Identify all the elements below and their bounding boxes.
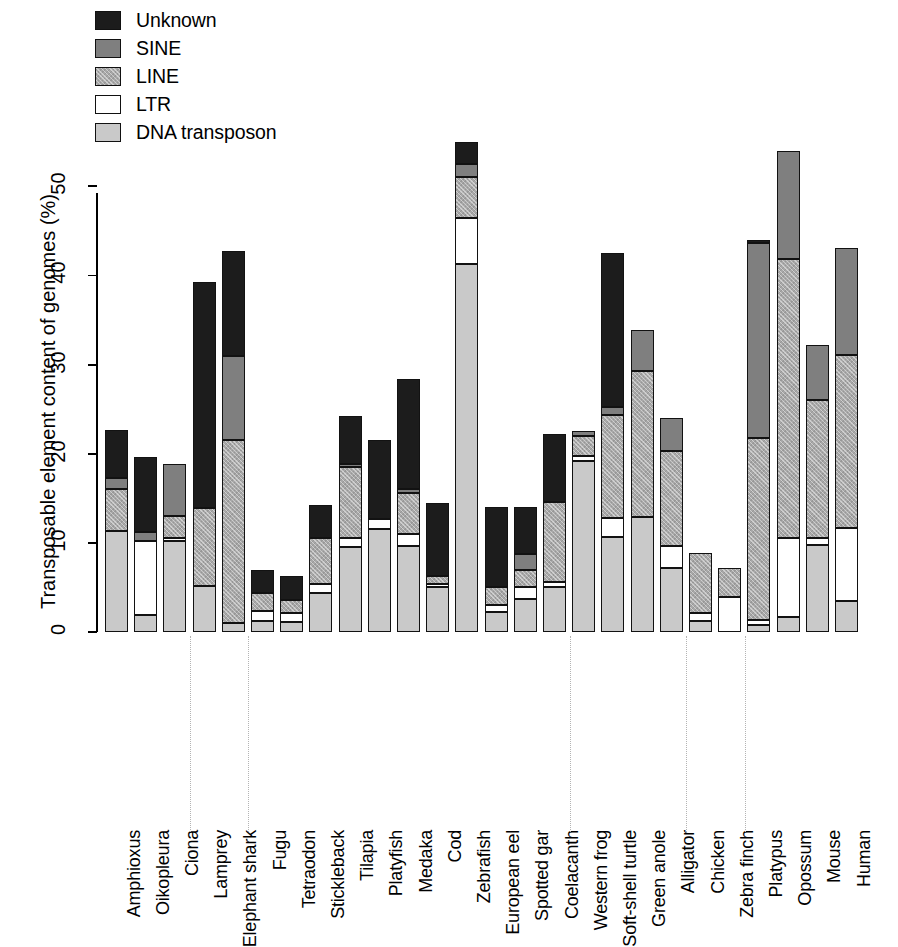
bar-elephant-shark[interactable] <box>222 251 245 632</box>
x-axis-label: Zebra finch <box>737 830 758 918</box>
legend-item: SINE <box>95 34 355 62</box>
bar-stickleback[interactable] <box>309 505 332 632</box>
x-axis-label: Chicken <box>708 830 729 894</box>
bar-segment <box>514 599 537 632</box>
bar-segment <box>485 507 508 586</box>
bar-segment <box>631 330 654 371</box>
bar-segment <box>222 623 245 632</box>
x-axis-label: Alligator <box>678 830 699 893</box>
bar-spotted-gar[interactable] <box>514 507 537 632</box>
bar-lamprey[interactable] <box>193 282 216 632</box>
bar-segment <box>485 587 508 606</box>
bar-segment <box>777 259 800 538</box>
bar-mouse[interactable] <box>806 345 829 632</box>
group-separator <box>745 636 746 832</box>
bar-fugu[interactable] <box>251 570 274 632</box>
bar-segment <box>514 554 537 569</box>
bar-segment <box>309 505 332 537</box>
bar-segment <box>280 600 303 613</box>
bar-platyfish[interactable] <box>368 440 391 632</box>
bar-segment <box>426 576 449 584</box>
x-axis-label: Western frog <box>591 830 612 930</box>
bar-segment <box>806 545 829 632</box>
group-separator <box>686 636 687 832</box>
bar-oikopleura[interactable] <box>134 457 157 632</box>
y-axis-tick <box>88 185 97 187</box>
bar-zebra-finch[interactable] <box>718 568 741 632</box>
bar-segment <box>134 532 157 541</box>
y-axis-tick <box>88 453 97 455</box>
bar-segment <box>339 538 362 548</box>
bar-amphioxus[interactable] <box>105 430 128 632</box>
bar-segment <box>514 570 537 587</box>
bar-opossum[interactable] <box>777 151 800 632</box>
bar-platypus[interactable] <box>747 240 770 632</box>
legend-item: LINE <box>95 62 355 90</box>
bar-tilapia[interactable] <box>339 416 362 632</box>
bar-segment <box>397 379 420 490</box>
bar-segment <box>134 457 157 532</box>
x-axis-label: Tetraodon <box>299 830 320 908</box>
y-axis-tick-label: 0 <box>47 608 70 652</box>
y-axis-tick <box>88 275 97 277</box>
bar-segment <box>572 431 595 435</box>
bar-segment <box>251 611 274 622</box>
bar-segment <box>689 621 712 632</box>
bar-segment <box>601 537 624 632</box>
bar-segment <box>514 587 537 599</box>
bar-european-eel[interactable] <box>485 507 508 632</box>
bar-soft-shell-turtle[interactable] <box>601 253 624 632</box>
bar-chicken[interactable] <box>689 553 712 632</box>
bar-segment <box>280 613 303 622</box>
bar-segment <box>426 503 449 576</box>
bar-segment <box>105 531 128 632</box>
bar-segment <box>163 538 186 541</box>
bar-segment <box>193 282 216 508</box>
bar-segment <box>309 593 332 632</box>
x-axis-label: Spotted gar <box>532 830 553 921</box>
bar-segment <box>309 538 332 584</box>
bar-segment <box>601 253 624 406</box>
bar-human[interactable] <box>835 248 858 632</box>
bar-segment <box>193 586 216 632</box>
legend-item-label: Unknown <box>136 11 217 30</box>
y-axis-tick-label: 50 <box>47 162 70 206</box>
legend-item-label: SINE <box>136 39 181 58</box>
bar-alligator[interactable] <box>660 418 683 632</box>
y-axis-tick <box>88 631 97 633</box>
bar-segment <box>222 440 245 623</box>
bar-segment <box>455 218 478 264</box>
bar-segment <box>339 416 362 464</box>
bar-tetraodon[interactable] <box>280 576 303 632</box>
bar-segment <box>777 151 800 259</box>
bar-cod[interactable] <box>426 503 449 632</box>
bar-segment <box>835 528 858 601</box>
chart-legend: UnknownSINELINELTRDNA transposon <box>95 6 355 146</box>
bar-segment <box>397 546 420 632</box>
legend-swatch-icon <box>95 11 121 30</box>
bar-segment <box>193 508 216 586</box>
bar-segment <box>485 612 508 632</box>
bar-segment <box>309 584 332 593</box>
bar-segment <box>777 617 800 632</box>
bar-segment <box>601 518 624 537</box>
bar-segment <box>835 355 858 528</box>
bar-segment <box>660 418 683 451</box>
legend-item: LTR <box>95 90 355 118</box>
legend-swatch-icon <box>95 123 121 142</box>
x-axis-label: Stickleback <box>328 830 349 919</box>
bar-segment <box>455 142 478 164</box>
x-axis-label: Cod <box>445 830 466 862</box>
bar-green-anole[interactable] <box>631 330 654 632</box>
bar-segment <box>397 534 420 546</box>
bar-segment <box>280 576 303 600</box>
bar-segment <box>747 620 770 624</box>
bar-segment <box>601 415 624 518</box>
bar-medaka[interactable] <box>397 379 420 632</box>
bar-segment <box>572 456 595 461</box>
bar-coelacanth[interactable] <box>543 434 566 632</box>
bar-western-frog[interactable] <box>572 431 595 632</box>
bar-ciona[interactable] <box>163 464 186 632</box>
bar-zebrafish[interactable] <box>455 142 478 632</box>
x-axis-label: European eel <box>503 830 524 935</box>
